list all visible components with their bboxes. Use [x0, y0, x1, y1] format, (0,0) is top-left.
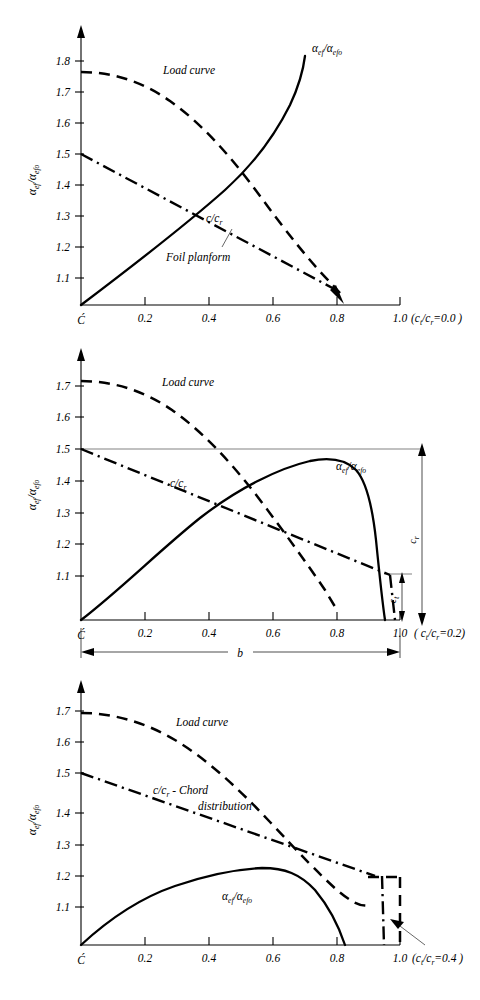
centerline-symbol-top: Ć: [77, 313, 85, 326]
y-tick-label: 1.4: [56, 475, 71, 487]
figure-container: 1.1 1.2 1.3 1.4 1.5 1.6 1.7 1.8 αef/αefo…: [0, 0, 480, 1000]
x-tick-label: 0.4: [202, 627, 217, 639]
x-tick-label: 0.4: [202, 952, 217, 964]
alpha-ratio-curve-middle: [81, 459, 385, 620]
y-tick-label: 1.8: [56, 55, 71, 67]
x-ticks-bottom: [145, 937, 400, 945]
y-tick-label: 1.7: [56, 380, 72, 392]
chord-distribution-bottom: [81, 773, 375, 876]
foil-planform-label-top: Foil planform: [165, 251, 230, 264]
x-tick-label: 0.4: [202, 312, 217, 324]
dimension-span: b: [81, 628, 400, 660]
y-tick-label: 1.3: [56, 210, 71, 222]
y-tick-label: 1.5: [56, 767, 71, 779]
y-axis-title-bottom: αef/αefo: [25, 804, 41, 835]
y-tick-label: 1.5: [56, 443, 71, 455]
x-tick-label: 0.6: [266, 952, 281, 964]
y-ticks-top: [75, 61, 84, 278]
x-tick-label: 0.6: [266, 627, 281, 639]
chord-ratio-label-top: c/cr: [206, 212, 222, 227]
x-tick-label: 0.2: [138, 952, 153, 964]
svg-text:distribution: distribution: [198, 800, 252, 812]
x-tick-label: 0.8: [330, 312, 345, 324]
y-tick-label: 1.2: [56, 538, 71, 550]
load-curve-label-top: Load curve: [162, 64, 215, 76]
y-axis-top: [77, 25, 85, 305]
y-tick-label: 1.5: [56, 148, 71, 160]
panel-middle: 1.1 1.2 1.3 1.4 1.5 1.6 1.7 αef/αefo 0.2…: [25, 348, 465, 660]
dimension-tip-chord: ct: [384, 572, 412, 622]
y-tick-label: 1.4: [56, 807, 71, 819]
alpha-ratio-label-top: αef/αefo: [312, 42, 342, 57]
y-tick-labels-middle: 1.1 1.2 1.3 1.4 1.5 1.6 1.7: [56, 380, 72, 582]
alpha-ratio-label-middle: αef/αefo: [336, 460, 366, 475]
alpha-ratio-label-bottom: αef/αefo: [222, 890, 252, 905]
svg-text:αef/αefo: αef/αefo: [25, 164, 41, 195]
svg-text:αef/αefo: αef/αefo: [25, 804, 41, 835]
y-tick-label: 1.4: [56, 179, 71, 191]
chord-tip-bottom: [382, 876, 384, 945]
taper-ratio-note-middle: ( ct/cr=0.2): [414, 627, 465, 642]
x-tick-label: 0.2: [138, 312, 153, 324]
x-tick-labels-bottom: 0.2 0.4 0.6 0.8 1.0 Ć: [77, 952, 407, 966]
chord-ratio-label-bottom: c/cr - Chord distribution: [153, 784, 252, 812]
x-tick-label: 1.0: [393, 952, 408, 964]
y-tick-label: 1.7: [56, 86, 72, 98]
y-axis-sub-efo: efo: [32, 164, 41, 173]
load-curve-label-middle: Load curve: [161, 376, 214, 388]
y-axis-middle: [77, 348, 85, 620]
alpha-ratio-curve-bottom: [81, 868, 345, 945]
x-tick-labels-middle: 0.2 0.4 0.6 0.8 1.0 Ć: [77, 627, 407, 641]
y-tick-label: 1.1: [56, 901, 70, 913]
panel-bottom: 1.1 1.2 1.3 1.4 1.5 1.6 1.7 αef/αefo 0.2…: [25, 680, 463, 967]
dimension-root-chord: cr: [407, 443, 426, 626]
x-tick-label: 0.8: [330, 952, 345, 964]
root-chord-label: cr: [407, 536, 421, 543]
technical-figure: 1.1 1.2 1.3 1.4 1.5 1.6 1.7 1.8 αef/αefo…: [0, 0, 480, 1000]
tip-chord-label: ct: [387, 596, 401, 603]
y-tick-labels-top: 1.1 1.2 1.3 1.4 1.5 1.6 1.7 1.8: [56, 55, 72, 284]
panel-top: 1.1 1.2 1.3 1.4 1.5 1.6 1.7 1.8 αef/αefo…: [25, 25, 462, 327]
foil-planform-leader-top: [222, 229, 232, 247]
load-curve-label-bottom: Load curve: [175, 716, 228, 728]
y-tick-label: 1.2: [56, 241, 71, 253]
y-tick-label: 1.7: [56, 705, 72, 717]
span-label: b: [237, 647, 243, 659]
taper-ratio-note-top: (ct/cr=0.0 ): [411, 312, 462, 327]
x-tick-labels-top: 0.2 0.4 0.6 0.8 1.0 Ć: [77, 312, 407, 326]
y-tick-label: 1.1: [56, 570, 70, 582]
x-tick-label: 0.6: [266, 312, 281, 324]
load-curve-middle: [81, 381, 337, 610]
y-tick-label: 1.3: [56, 507, 71, 519]
y-axis-title-middle: αef/αefo: [25, 479, 41, 510]
taper-ratio-note-bottom: (ct/cr=0.4 ): [412, 952, 463, 967]
y-ticks-bottom: [75, 711, 84, 907]
y-ticks-middle: [75, 386, 84, 576]
y-tick-label: 1.1: [56, 272, 70, 284]
x-ticks-top: [145, 297, 400, 305]
svg-text:c/cr - Chord: c/cr - Chord: [153, 784, 208, 799]
alpha-ratio-curve-top: [81, 56, 305, 305]
tip-chord-pointer-bottom: [390, 919, 425, 945]
x-ticks-middle: [145, 612, 400, 620]
y-tick-label: 1.2: [56, 870, 71, 882]
y-tick-label: 1.3: [56, 839, 71, 851]
x-tick-label: 0.2: [138, 627, 153, 639]
centerline-symbol-bottom: Ć: [77, 953, 85, 966]
y-tick-label: 1.6: [56, 117, 71, 129]
x-tick-label: 0.8: [330, 627, 345, 639]
y-tick-label: 1.6: [56, 736, 71, 748]
y-tick-label: 1.6: [56, 411, 71, 423]
svg-text:αef/αefo: αef/αefo: [25, 479, 41, 510]
y-axis-title-top: αef/αefo: [25, 164, 41, 195]
x-tick-label: 1.0: [393, 312, 408, 324]
y-tick-labels-bottom: 1.1 1.2 1.3 1.4 1.5 1.6 1.7: [56, 705, 72, 913]
